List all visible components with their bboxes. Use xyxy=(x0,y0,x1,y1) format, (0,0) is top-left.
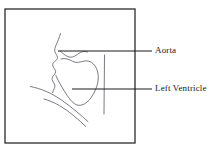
right-vertical-border-line-stroke xyxy=(104,55,105,114)
figure-canvas xyxy=(0,0,217,149)
label-left-ventricle: Left Ventricle xyxy=(155,83,207,94)
anatomical-figure: Aorta Left Ventricle xyxy=(0,0,217,149)
figure-border-box xyxy=(5,9,135,143)
label-aorta: Aorta xyxy=(155,45,176,56)
